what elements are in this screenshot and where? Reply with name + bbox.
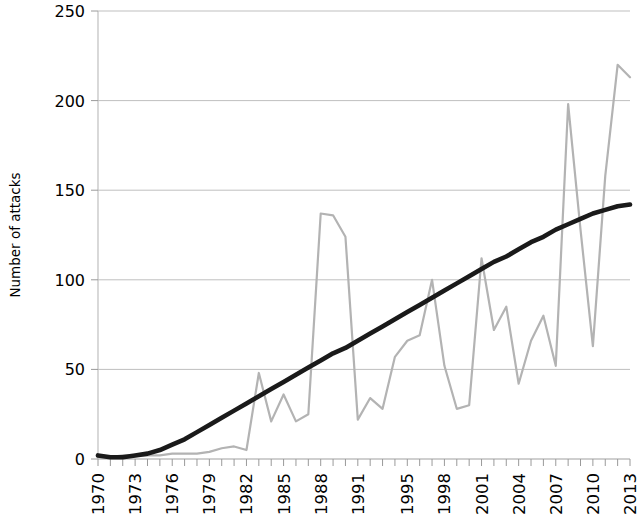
x-tick-label-1982: 1982 [237, 473, 256, 515]
x-tick-label-1973: 1973 [126, 473, 145, 515]
x-tick-label-1976: 1976 [163, 473, 182, 515]
x-tick-label-1988: 1988 [312, 473, 331, 515]
x-ticks-group [98, 459, 630, 466]
y-tick-label-50: 50 [65, 360, 85, 379]
x-tick-label-1991: 1991 [349, 473, 368, 515]
y-tick-label-150: 150 [54, 181, 85, 200]
y-tick-label-250: 250 [54, 2, 85, 21]
x-tick-label-1979: 1979 [200, 473, 219, 515]
x-tick-label-2013: 2013 [621, 473, 640, 515]
series-line-1 [98, 205, 630, 458]
x-tick-label-2007: 2007 [547, 473, 566, 515]
x-tick-label-1970: 1970 [89, 473, 108, 515]
x-tick-label-1985: 1985 [275, 473, 294, 515]
chart-plot-svg: 050100150200250 197019731976197919821985… [0, 0, 642, 529]
x-tick-label-1998: 1998 [435, 473, 454, 515]
series-line-0 [98, 65, 630, 457]
y-ticks-group: 050100150200250 [54, 2, 98, 469]
y-tick-label-100: 100 [54, 271, 85, 290]
chart-container: Number of attacks 050100150200250 197019… [0, 0, 642, 529]
x-tick-label-1995: 1995 [398, 473, 417, 515]
x-tick-label-2010: 2010 [584, 473, 603, 515]
x-tick-labels-group: 1970197319761979198219851988199119951998… [89, 473, 640, 515]
x-tick-label-2001: 2001 [473, 473, 492, 515]
data-series-group [98, 65, 630, 457]
x-tick-label-2004: 2004 [510, 473, 529, 515]
y-tick-label-200: 200 [54, 92, 85, 111]
y-tick-label-0: 0 [75, 450, 85, 469]
